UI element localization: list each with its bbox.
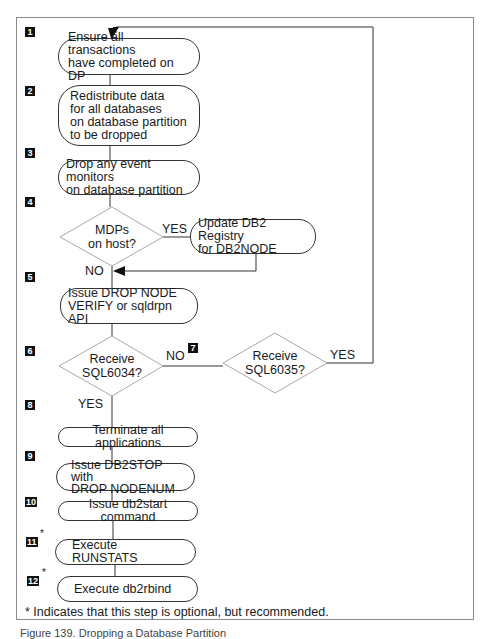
step-1-box: Ensure all transactions have completed o…: [58, 38, 200, 75]
step-badge-4: 4: [25, 197, 35, 207]
step-badge-2: 2: [25, 86, 35, 96]
step-10-box: Issue db2start command: [58, 501, 198, 521]
figure-caption: Figure 139. Dropping a Database Partitio…: [20, 627, 226, 639]
step-badge-11: 11: [26, 537, 38, 547]
step-badge-8: 8: [25, 400, 35, 410]
decision-4-text: MDPs on host?: [76, 223, 148, 251]
update-registry-box: Update DB2 Registry for DB2NODE: [190, 219, 316, 254]
decision-6-text: Receive SQL6034?: [76, 352, 148, 380]
step-badge-1: 1: [25, 27, 35, 37]
decision-4-yes-label: YES: [162, 223, 187, 236]
optional-star-12: *: [42, 568, 46, 578]
step-11-box: Execute RUNSTATS: [55, 539, 196, 565]
step-badge-3: 3: [25, 148, 35, 158]
step-3-box: Drop any event monitors on database part…: [58, 160, 200, 195]
footnote: * Indicates that this step is optional, …: [25, 605, 329, 619]
step-badge-6: 6: [25, 346, 35, 356]
step-9-box: Issue DB2STOP with DROP NODENUM: [56, 463, 195, 491]
step-badge-7: 7: [188, 343, 198, 353]
step-badge-12: 12: [27, 576, 39, 586]
decision-6-no-label: NO: [166, 350, 185, 363]
step-8-box: Terminate all applications: [58, 427, 198, 447]
step-5-box: Issue DROP NODE VERIFY or sqldrpn API: [60, 288, 198, 324]
step-badge-5: 5: [25, 272, 35, 282]
step-badge-9: 9: [25, 451, 35, 461]
step-badge-10: 10: [25, 497, 37, 507]
decision-6-yes-label: YES: [78, 398, 103, 411]
step-12-box: Execute db2rbind: [57, 576, 198, 602]
decision-7-text: Receive SQL6035?: [239, 349, 311, 377]
decision-7-yes-label: YES: [330, 349, 355, 362]
decision-4-no-label: NO: [85, 265, 104, 278]
optional-star-11: *: [40, 529, 44, 539]
step-2-box: Redistribute data for all databases on d…: [58, 85, 200, 146]
arrowhead-merge: [113, 266, 125, 276]
